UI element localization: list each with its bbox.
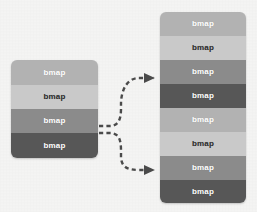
target-stack-row-8-label: bmap — [192, 188, 214, 196]
target-stack-row-5: bmap — [160, 108, 246, 132]
target-stack-row-7: bmap — [160, 156, 246, 180]
source-stack-row-1-label: bmap — [43, 69, 65, 77]
target-stack-row-3-label: bmap — [192, 68, 214, 76]
target-stack-row-2-label: bmap — [192, 44, 214, 52]
target-stack-row-3: bmap — [160, 60, 246, 84]
target-stack-row-1-label: bmap — [192, 20, 214, 28]
target-stack-row-7-label: bmap — [192, 164, 214, 172]
source-stack-row-4-label: bmap — [43, 142, 65, 150]
source-stack-row-1: bmap — [11, 60, 98, 85]
source-stack-row-4: bmap — [11, 133, 98, 158]
source-stack-row-3: bmap — [11, 109, 98, 133]
connector-upper-arrow — [99, 78, 154, 126]
target-stack-row-4-label: bmap — [192, 92, 214, 100]
source-stack-row-2-label: bmap — [43, 93, 65, 101]
source-stack-row-2: bmap — [11, 85, 98, 109]
target-stack-row-8: bmap — [160, 180, 246, 203]
source-stack-row-3-label: bmap — [43, 117, 65, 125]
target-stack: bmapbmapbmapbmapbmapbmapbmapbmap — [160, 12, 246, 203]
connector-lower-arrow — [99, 133, 154, 170]
target-stack-row-5-label: bmap — [192, 116, 214, 124]
target-stack-row-4: bmap — [160, 84, 246, 108]
target-stack-row-6-label: bmap — [192, 140, 214, 148]
target-stack-row-1: bmap — [160, 12, 246, 36]
target-stack-row-6: bmap — [160, 132, 246, 156]
diagram-canvas: bmapbmapbmapbmap bmapbmapbmapbmapbmapbma… — [0, 0, 257, 212]
target-stack-row-2: bmap — [160, 36, 246, 60]
source-stack: bmapbmapbmapbmap — [11, 60, 98, 158]
